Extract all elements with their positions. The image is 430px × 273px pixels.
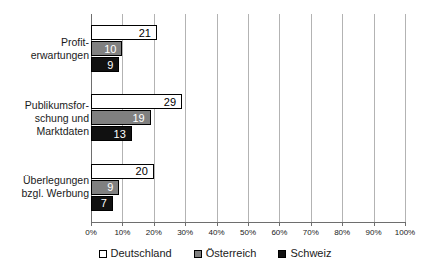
bar-value-label: 9 [107,59,113,70]
bar-value-label: 29 [164,96,176,107]
bar-row: 20 [91,164,405,179]
legend-item-sterreich[interactable]: Österreich [194,247,257,260]
white-square-icon [99,250,107,258]
tick-mark [279,222,280,226]
bar-deutschland-0: 21 [91,25,157,40]
category-label-line: Profit- [0,36,89,49]
legend-label: Österreich [206,247,257,260]
category-label-line: schung und [0,112,89,125]
category-label: Überlegungenbzgl. Werbung [0,174,89,200]
category-label-line: Überlegungen [0,174,89,187]
bar-deutschland-2: 20 [91,164,154,179]
tick-mark [154,222,155,226]
bar-row: 9 [91,180,405,195]
gridline-100 [405,14,406,222]
bar-schweiz-0: 9 [91,57,119,72]
bar-value-label: 10 [104,43,116,54]
bar-value-label: 20 [136,166,148,177]
bar-deutschland-1: 29 [91,94,182,109]
horizontal-bar-chart: 211092919132097 0%10%20%30%40%50%60%70%8… [0,0,430,273]
bar-row: 13 [91,126,405,141]
bar-group: 2097 [91,153,405,222]
bar-value-label: 13 [114,128,126,139]
legend-item-schweiz[interactable]: Schweiz [278,247,331,260]
bar-value-label: 19 [132,112,144,123]
tick-mark [405,222,406,226]
bar-sterreich-0: 10 [91,41,122,56]
category-label-line: Marktdaten [0,125,89,138]
bar-value-label: 7 [101,198,107,209]
gray-square-icon [194,250,202,258]
legend-label: Deutschland [111,247,172,260]
chart-legend: DeutschlandÖsterreichSchweiz [0,247,430,260]
category-label-line: Publikumsfor- [0,99,89,112]
tick-mark [185,222,186,226]
bar-sterreich-2: 9 [91,180,119,195]
category-label-line: erwartungen [0,49,89,62]
plot-area: 211092919132097 [91,14,405,222]
category-label: Publikumsfor-schung undMarktdaten [0,99,89,138]
bar-row: 9 [91,57,405,72]
bar-group: 291913 [91,83,405,152]
tick-mark [217,222,218,226]
bar-schweiz-1: 13 [91,126,132,141]
legend-item-deutschland[interactable]: Deutschland [99,247,172,260]
black-square-icon [278,250,286,258]
bar-value-label: 9 [107,182,113,193]
bar-row: 19 [91,110,405,125]
tick-mark [122,222,123,226]
tick-mark [374,222,375,226]
bar-row: 7 [91,196,405,211]
tick-mark [342,222,343,226]
bar-value-label: 21 [139,27,151,38]
x-tick-label: 100% [385,228,425,238]
tick-mark [311,222,312,226]
bar-row: 29 [91,94,405,109]
bar-group: 21109 [91,14,405,83]
tick-mark [91,222,92,226]
bar-sterreich-1: 19 [91,110,151,125]
category-label: Profit-erwartungen [0,36,89,62]
legend-label: Schweiz [290,247,331,260]
bar-row: 10 [91,41,405,56]
bar-row: 21 [91,25,405,40]
tick-mark [248,222,249,226]
bar-schweiz-2: 7 [91,196,113,211]
category-label-line: bzgl. Werbung [0,187,89,200]
